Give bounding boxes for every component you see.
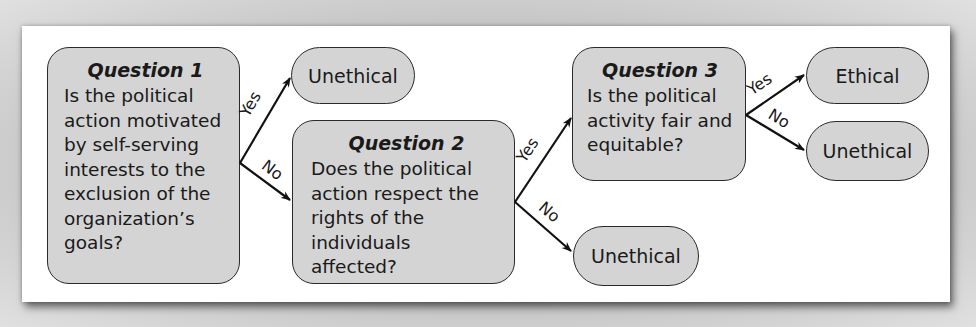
connector-arrows <box>0 0 976 327</box>
